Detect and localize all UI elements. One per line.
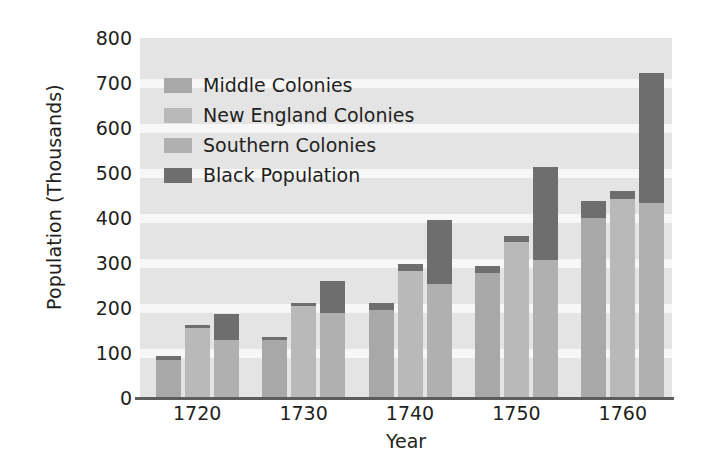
bar-segment-colony bbox=[214, 340, 239, 399]
x-tick-1740: 1740 bbox=[386, 402, 434, 424]
bar-segment-black-population bbox=[320, 281, 345, 313]
plot-area: Middle ColoniesNew England ColoniesSouth… bbox=[140, 38, 672, 398]
bar-segment-black-population bbox=[533, 167, 558, 260]
bar-segment-black-population bbox=[369, 303, 394, 310]
legend-swatch-icon bbox=[164, 168, 192, 183]
legend-item-label: Southern Colonies bbox=[203, 134, 376, 156]
legend-item: Middle Colonies bbox=[164, 70, 414, 100]
bar bbox=[639, 73, 664, 398]
bar-segment-colony bbox=[185, 328, 210, 398]
legend-item: Black Population bbox=[164, 160, 414, 190]
x-tick-1730: 1730 bbox=[279, 402, 327, 424]
y-tick-500: 500 bbox=[60, 162, 132, 184]
bar-segment-black-population bbox=[185, 325, 210, 328]
chart-legend: Middle ColoniesNew England ColoniesSouth… bbox=[164, 70, 414, 190]
legend-item-label: New England Colonies bbox=[203, 104, 414, 126]
bar bbox=[398, 264, 423, 398]
bar bbox=[533, 167, 558, 398]
bar-segment-colony bbox=[398, 271, 423, 398]
bar-segment-black-population bbox=[214, 314, 239, 339]
bar-segment-black-population bbox=[639, 73, 664, 204]
y-tick-700: 700 bbox=[60, 72, 132, 94]
x-axis-label: Year bbox=[140, 430, 672, 452]
chart-figure: Population (Thousands) 80070060050040030… bbox=[0, 0, 714, 463]
bar bbox=[262, 337, 287, 398]
bar-segment-colony bbox=[291, 306, 316, 398]
bar bbox=[610, 191, 635, 398]
bar-segment-black-population bbox=[427, 220, 452, 284]
x-tick-1720: 1720 bbox=[173, 402, 221, 424]
bar-segment-colony bbox=[639, 203, 664, 398]
bar-segment-black-population bbox=[610, 191, 635, 199]
bar-segment-black-population bbox=[398, 264, 423, 271]
bar bbox=[214, 314, 239, 398]
bar bbox=[581, 201, 606, 398]
y-tick-600: 600 bbox=[60, 117, 132, 139]
legend-item: Southern Colonies bbox=[164, 130, 414, 160]
x-tick-1760: 1760 bbox=[599, 402, 647, 424]
y-tick-200: 200 bbox=[60, 297, 132, 319]
bar-segment-colony bbox=[369, 310, 394, 398]
y-tick-400: 400 bbox=[60, 207, 132, 229]
bar bbox=[369, 303, 394, 398]
bar-segment-colony bbox=[581, 218, 606, 398]
bar-segment-colony bbox=[610, 199, 635, 398]
y-axis-tick-labels: 8007006005004003002001000 bbox=[52, 38, 132, 398]
legend-swatch-icon bbox=[164, 78, 192, 93]
legend-item: New England Colonies bbox=[164, 100, 414, 130]
bar-segment-colony bbox=[475, 273, 500, 398]
bar bbox=[291, 303, 316, 398]
legend-item-label: Black Population bbox=[203, 164, 360, 186]
bar bbox=[156, 356, 181, 398]
legend-swatch-icon bbox=[164, 108, 192, 123]
x-axis-tick-labels: 17201730174017501760 bbox=[140, 402, 672, 428]
bar-segment-colony bbox=[533, 260, 558, 398]
x-axis-line bbox=[135, 397, 674, 400]
y-tick-800: 800 bbox=[60, 27, 132, 49]
y-tick-100: 100 bbox=[60, 342, 132, 364]
legend-item-label: Middle Colonies bbox=[203, 74, 353, 96]
bar bbox=[475, 266, 500, 398]
legend-swatch-icon bbox=[164, 138, 192, 153]
bar-segment-black-population bbox=[262, 337, 287, 340]
bar-segment-black-population bbox=[291, 303, 316, 306]
bar bbox=[320, 281, 345, 398]
x-tick-1750: 1750 bbox=[492, 402, 540, 424]
bar bbox=[185, 325, 210, 398]
bar-segment-black-population bbox=[156, 356, 181, 360]
bar-segment-black-population bbox=[475, 266, 500, 274]
bar-segment-black-population bbox=[504, 236, 529, 242]
y-tick-0: 0 bbox=[60, 387, 132, 409]
bar-segment-colony bbox=[156, 360, 181, 398]
bar bbox=[504, 236, 529, 398]
bar-segment-colony bbox=[262, 340, 287, 399]
bar-segment-colony bbox=[504, 242, 529, 398]
bar bbox=[427, 220, 452, 398]
bar-segment-colony bbox=[320, 313, 345, 399]
bar-segment-black-population bbox=[581, 201, 606, 218]
y-tick-300: 300 bbox=[60, 252, 132, 274]
bar-segment-colony bbox=[427, 284, 452, 398]
